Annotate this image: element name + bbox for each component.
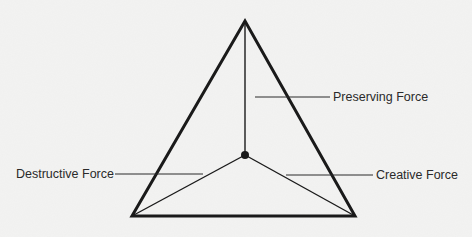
center-point	[241, 151, 249, 159]
label-destructive-force: Destructive Force	[16, 167, 114, 181]
label-creative-force: Creative Force	[376, 168, 458, 182]
label-preserving-force: Preserving Force	[333, 90, 428, 104]
diagram-canvas	[0, 0, 472, 237]
force-triangle-diagram: Preserving Force Destructive Force Creat…	[0, 0, 472, 237]
